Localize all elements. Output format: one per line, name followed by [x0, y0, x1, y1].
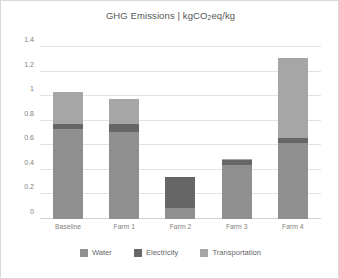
bars-layer — [40, 47, 321, 219]
y-axis-tick-label: 0 — [6, 208, 34, 215]
legend-swatch-icon — [80, 249, 88, 257]
y-axis-tick-label: 0.6 — [6, 134, 34, 141]
legend-label: Transportation — [212, 248, 261, 257]
x-axis-tick-label: Farm 2 — [152, 223, 208, 230]
legend-label: Water — [92, 248, 112, 257]
bar-segment-transportation[interactable] — [109, 99, 139, 125]
x-axis: BaselineFarm 1Farm 2Farm 3Farm 4 — [40, 223, 321, 230]
bar-segment-electricity[interactable] — [109, 124, 139, 131]
x-axis-tick-label: Baseline — [40, 223, 96, 230]
bar-segment-water[interactable] — [222, 165, 252, 219]
bar-group[interactable] — [265, 47, 321, 219]
x-axis-tick-label: Farm 3 — [209, 223, 265, 230]
x-axis-tick-label: Farm 4 — [265, 223, 321, 230]
bar-stack[interactable] — [222, 159, 252, 219]
bar-segment-water[interactable] — [53, 129, 83, 219]
bar-group[interactable] — [40, 47, 96, 219]
bar-segment-water[interactable] — [278, 143, 308, 219]
bar-segment-transportation[interactable] — [278, 58, 308, 138]
chart-title-main: GHG Emissions | kgCO — [106, 10, 208, 21]
y-axis-tick-label: 1.2 — [6, 60, 34, 67]
legend-item[interactable]: Transportation — [200, 248, 261, 257]
y-axis-tick-label: 0.2 — [6, 183, 34, 190]
legend-swatch-icon — [200, 249, 208, 257]
bar-segment-water[interactable] — [165, 208, 195, 219]
bar-segment-water[interactable] — [109, 132, 139, 219]
y-axis-tick-label: 1.4 — [6, 36, 34, 43]
bar-group[interactable] — [152, 47, 208, 219]
legend-label: Electricity — [146, 248, 179, 257]
bar-stack[interactable] — [109, 99, 139, 219]
bar-stack[interactable] — [278, 58, 308, 219]
y-axis-tick-label: 0.8 — [6, 109, 34, 116]
legend-swatch-icon — [134, 249, 142, 257]
legend-item[interactable]: Water — [80, 248, 112, 257]
chart-legend: WaterElectricityTransportation — [1, 248, 339, 257]
bar-group[interactable] — [96, 47, 152, 219]
bar-segment-transportation[interactable] — [53, 92, 83, 124]
x-axis-tick-label: Farm 1 — [96, 223, 152, 230]
y-axis-tick-label: 1 — [6, 85, 34, 92]
bar-stack[interactable] — [165, 177, 195, 219]
y-axis-tick-label: 0.4 — [6, 158, 34, 165]
legend-item[interactable]: Electricity — [134, 248, 179, 257]
chart-title: GHG Emissions | kgCO2eq/kg — [1, 10, 339, 21]
bar-group[interactable] — [209, 47, 265, 219]
chart-container: GHG Emissions | kgCO2eq/kg 00.20.40.60.8… — [0, 0, 339, 279]
chart-title-suffix: eq/kg — [211, 10, 235, 21]
bar-segment-electricity[interactable] — [165, 177, 195, 208]
bar-stack[interactable] — [53, 92, 83, 219]
